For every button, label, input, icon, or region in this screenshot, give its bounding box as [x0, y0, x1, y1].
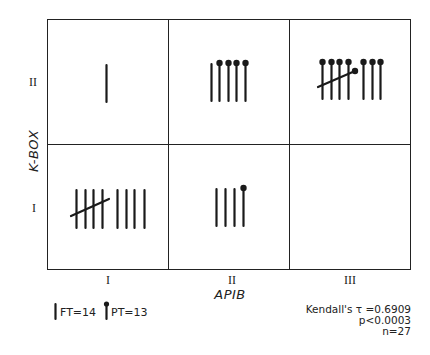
cell-kbox-II-apib-II — [212, 60, 249, 101]
y-axis-title: K-BOX — [26, 129, 41, 172]
col-label-II: II — [228, 273, 236, 287]
pt-dot — [225, 60, 231, 66]
pt-dot — [240, 185, 246, 191]
pt-dot — [352, 68, 358, 74]
pt-dot — [377, 59, 383, 65]
cell-kbox-I-apib-I — [71, 190, 145, 228]
statistics: Kendall's τ =0.6909 p<0.0003 n=27 — [306, 303, 411, 337]
cell-kbox-II-apib-III — [318, 59, 384, 99]
pt-dot — [369, 59, 375, 65]
pt-dot — [216, 60, 222, 66]
legend: FT=14 PT=13 — [56, 301, 148, 319]
pt-dot — [242, 60, 248, 66]
pt-dot — [233, 60, 239, 66]
legend-pt-dot — [104, 301, 109, 306]
cell-kbox-I-apib-II — [217, 185, 247, 226]
pt-dot — [345, 59, 351, 65]
legend-ft-label: FT=14 — [60, 306, 96, 319]
row-label-I: I — [32, 201, 36, 215]
x-axis-title: APIB — [213, 287, 246, 302]
sample-size: n=27 — [382, 325, 411, 337]
pt-dot — [360, 59, 366, 65]
col-label-III: III — [344, 273, 356, 287]
legend-pt-label: PT=13 — [111, 306, 148, 319]
pt-dot — [336, 59, 342, 65]
contingency-tally-chart: K-BOX II I I II III APIB — [0, 0, 430, 355]
grid — [48, 20, 411, 270]
pt-dot — [328, 59, 334, 65]
pt-dot — [319, 59, 325, 65]
col-label-I: I — [106, 273, 110, 287]
row-label-II: II — [29, 75, 37, 89]
